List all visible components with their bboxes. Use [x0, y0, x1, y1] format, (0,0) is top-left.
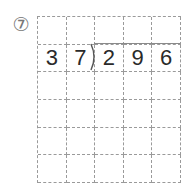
grid-cell[interactable] [152, 155, 181, 183]
grid-cell[interactable] [95, 155, 124, 183]
grid-cell[interactable] [67, 17, 96, 45]
grid-cell[interactable] [38, 72, 67, 100]
grid-cell[interactable] [152, 17, 181, 45]
dividend-digit: 6 [152, 45, 181, 73]
problem-number-label: ⑦ [11, 14, 31, 34]
grid-cell[interactable] [152, 100, 181, 128]
division-bracket-icon [88, 43, 98, 71]
long-division-grid: 3 7 2 9 6 [37, 16, 181, 183]
divisor-digit: 3 [38, 45, 67, 73]
grid-cell[interactable] [152, 128, 181, 156]
grid-cell[interactable] [124, 72, 153, 100]
dividend-digit: 9 [124, 45, 153, 73]
grid-cell[interactable] [124, 128, 153, 156]
grid-cell[interactable] [95, 128, 124, 156]
grid-cell[interactable] [38, 17, 67, 45]
grid-cell[interactable] [67, 72, 96, 100]
grid-cell[interactable] [38, 155, 67, 183]
grid-cell[interactable] [95, 17, 124, 45]
division-bar [94, 43, 180, 44]
grid-cell[interactable] [95, 72, 124, 100]
grid-cell[interactable] [124, 155, 153, 183]
grid-cell[interactable] [38, 100, 67, 128]
grid-cell[interactable] [124, 100, 153, 128]
grid-cell[interactable] [38, 128, 67, 156]
grid-cell[interactable] [67, 100, 96, 128]
grid-cell[interactable] [124, 17, 153, 45]
grid-cell[interactable] [152, 72, 181, 100]
dividend-digit: 2 [95, 45, 124, 73]
grid-cell[interactable] [67, 128, 96, 156]
grid-cell[interactable] [95, 100, 124, 128]
grid-cell[interactable] [67, 155, 96, 183]
